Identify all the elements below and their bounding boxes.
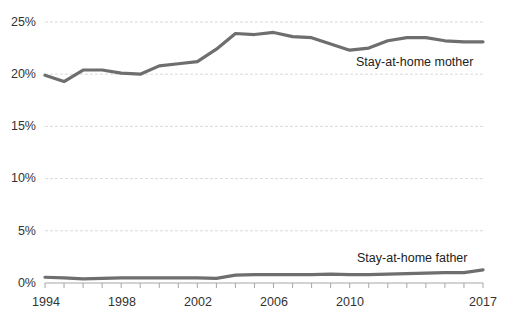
x-axis-ticks <box>45 283 483 288</box>
series-line-stay-at-home-father <box>45 270 483 279</box>
plot-area <box>0 0 513 325</box>
series-label-stay-at-home-mother: Stay-at-home mother <box>356 55 473 69</box>
stay-at-home-parents-line-chart: 25% 20% 15% 10% 5% 0% 1994 1998 2002 200… <box>0 0 513 325</box>
gridlines <box>45 22 483 231</box>
series-label-stay-at-home-father: Stay-at-home father <box>357 251 467 265</box>
